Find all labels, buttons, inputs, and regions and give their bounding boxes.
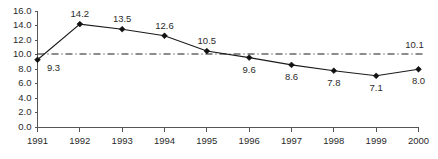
x-axis-ticks <box>38 128 419 132</box>
x-tick-label: 1995 <box>196 135 217 146</box>
x-tick-label: 1999 <box>366 135 387 146</box>
x-axis-tick-labels: 1991199219931994199519961997199819992000 <box>27 135 429 146</box>
y-tick-label: 16.0 <box>13 5 32 16</box>
data-value-label: 7.8 <box>327 77 340 88</box>
y-tick-label: 10.0 <box>13 48 32 59</box>
line-chart: 0.02.04.06.08.010.012.014.016.0 19911992… <box>0 0 438 159</box>
data-point-marker <box>246 55 252 61</box>
axis-lines <box>38 11 420 128</box>
data-value-label: 9.6 <box>243 64 256 75</box>
data-value-label: 14.2 <box>71 8 90 19</box>
data-value-label: 13.5 <box>113 13 132 24</box>
y-tick-label: 8.0 <box>18 63 31 74</box>
y-tick-label: 0.0 <box>18 121 31 132</box>
data-point-marker <box>373 73 379 79</box>
data-point-marker <box>162 33 168 39</box>
data-value-label: 7.1 <box>370 82 383 93</box>
x-tick-label: 1994 <box>154 135 175 146</box>
y-tick-label: 12.0 <box>13 34 32 45</box>
x-tick-label: 1991 <box>27 135 48 146</box>
data-series <box>38 24 419 76</box>
x-tick-label: 1996 <box>239 135 260 146</box>
y-tick-label: 14.0 <box>13 19 32 30</box>
x-tick-label: 2000 <box>408 135 429 146</box>
data-value-labels: 9.314.213.512.610.59.68.67.87.18.0 <box>47 8 425 93</box>
data-value-label: 8.0 <box>412 75 425 86</box>
data-value-label: 9.3 <box>47 62 60 73</box>
data-point-marker <box>204 48 210 54</box>
chart-canvas: 0.02.04.06.08.010.012.014.016.0 19911992… <box>0 0 438 159</box>
data-point-marker <box>331 68 337 74</box>
x-tick-label: 1997 <box>281 135 302 146</box>
data-value-label: 10.5 <box>198 35 217 46</box>
x-tick-label: 1993 <box>112 135 133 146</box>
x-tick-label: 1992 <box>69 135 90 146</box>
data-point-marker <box>119 26 125 32</box>
series-line <box>38 24 419 76</box>
y-tick-label: 4.0 <box>18 92 31 103</box>
reference-line-label: 10.1 <box>405 39 424 50</box>
y-tick-label: 2.0 <box>18 106 31 117</box>
data-value-label: 12.6 <box>155 20 174 31</box>
reference-line-group: 10.1 <box>38 39 424 54</box>
data-value-label: 8.6 <box>285 71 298 82</box>
data-point-markers <box>35 21 422 78</box>
data-point-marker <box>289 62 295 68</box>
y-tick-label: 6.0 <box>18 77 31 88</box>
data-point-marker <box>416 66 422 72</box>
y-axis-tick-labels: 0.02.04.06.08.010.012.014.016.0 <box>13 5 32 133</box>
x-tick-label: 1998 <box>323 135 344 146</box>
